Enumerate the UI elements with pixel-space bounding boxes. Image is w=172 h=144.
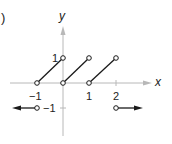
right-ray-arrow-icon [134,106,143,111]
piecewise-function-graph [0,0,172,144]
segment-1 [37,58,63,83]
y-axis-label: y [59,10,65,22]
y-tick-label-neg1: −1 [43,103,56,114]
x-axis-label: x [155,76,161,88]
panel-label: ) [1,11,5,24]
x-tick-label-1: 1 [86,91,92,102]
open-circle-icon [87,81,92,86]
segment-3 [89,58,116,83]
left-ray-arrow-icon [12,106,21,111]
axes [10,26,152,136]
y-tick-label-1: 1 [52,53,58,64]
open-circle-icon [35,81,40,86]
open-circle-icon [35,106,40,111]
x-tick-label-2: 2 [113,91,119,102]
y-axis-arrow-icon [61,26,66,35]
open-circle-icon [114,56,119,61]
x-tick-label-neg1: −1 [29,91,42,102]
open-circle-icon [87,56,92,61]
x-axis-arrow-icon [143,81,152,86]
open-circle-icon [61,56,66,61]
open-circle-icon [114,106,119,111]
open-circle-icon [61,81,66,86]
segment-2 [63,58,89,83]
